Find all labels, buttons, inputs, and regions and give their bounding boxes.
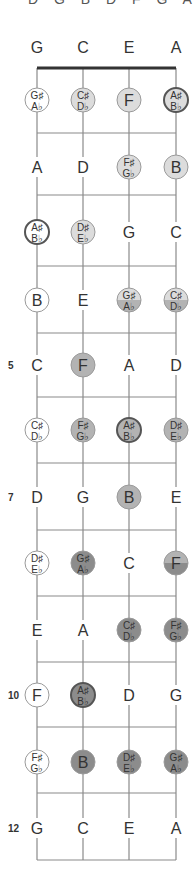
note-label-sharp: C♯	[123, 620, 135, 631]
note-label: C	[31, 357, 43, 374]
note-label: A	[124, 357, 135, 374]
note-label-sharp: G♯	[170, 752, 183, 763]
note-label: C	[123, 555, 135, 572]
note-label: D	[77, 159, 89, 176]
note-label: E	[124, 39, 135, 56]
note-label-flat: D♭	[170, 301, 182, 312]
note-label: E	[171, 489, 182, 506]
note-label-sharp: A♯	[77, 685, 89, 696]
note-label: F	[32, 687, 42, 704]
fret-number-label: 10	[8, 690, 20, 701]
note-label: G	[77, 489, 89, 506]
note-label: E	[78, 292, 89, 309]
note-label-sharp: F♯	[31, 752, 42, 763]
note-label-sharp: F♯	[170, 620, 181, 631]
note-label: C	[77, 39, 89, 56]
note-label-sharp: G♯	[31, 90, 44, 101]
note-label-flat: B♭	[77, 696, 89, 707]
note-label: F	[124, 92, 134, 109]
fret-number-label: 5	[8, 360, 14, 371]
note-label-flat: G♭	[123, 168, 136, 179]
note-label-flat: B♭	[170, 101, 182, 112]
note-label: C	[170, 224, 182, 241]
note-label: F	[78, 357, 88, 374]
note-label-flat: E♭	[31, 564, 43, 575]
note-label-flat: A♭	[31, 101, 43, 112]
note-label-flat: E♭	[170, 431, 182, 442]
note-label-flat: B♭	[123, 431, 135, 442]
note-label-flat: G♭	[31, 763, 44, 774]
note-label-flat: A♭	[170, 763, 182, 774]
note-label-sharp: D♯	[77, 222, 89, 233]
note-label: C	[77, 820, 89, 837]
note-label-flat: B♭	[31, 233, 43, 244]
note-label: G	[170, 687, 182, 704]
note-label-sharp: F♯	[77, 420, 88, 431]
note-label-sharp: C♯	[31, 420, 43, 431]
fretboard-diagram: GCEAG♯A♭C♯D♭FA♯B♭ADF♯G♭BA♯B♭D♯E♭GCBEG♯A♭…	[0, 0, 196, 895]
fret-number-label: 12	[8, 823, 20, 834]
note-label-sharp: G♯	[123, 290, 136, 301]
note-label: D	[123, 687, 135, 704]
note-label-sharp: D♯	[31, 553, 43, 564]
note-label: D	[170, 357, 182, 374]
note-label-sharp: D♯	[123, 752, 135, 763]
note-label-sharp: C♯	[170, 290, 182, 301]
note-label: D	[31, 489, 43, 506]
note-label-sharp: A♯	[31, 222, 43, 233]
note-label: G	[31, 820, 43, 837]
note-label-sharp: C♯	[77, 90, 89, 101]
note-label-flat: A♭	[77, 564, 89, 575]
note-label-sharp: F♯	[123, 157, 134, 168]
note-label-flat: A♭	[123, 301, 135, 312]
note-label: A	[171, 820, 182, 837]
note-label-flat: E♭	[77, 233, 89, 244]
fret-number-label: 7	[8, 492, 14, 503]
note-label-flat: G♭	[77, 431, 90, 442]
note-label-flat: E♭	[123, 763, 135, 774]
note-label: B	[32, 292, 43, 309]
note-label-flat: G♭	[170, 631, 183, 642]
note-label: E	[32, 622, 43, 639]
note-label: B	[78, 754, 89, 771]
note-label-flat: D♭	[31, 431, 43, 442]
note-label-sharp: A♯	[170, 90, 182, 101]
note-label-flat: D♭	[77, 101, 89, 112]
note-label: F	[171, 555, 181, 572]
note-label-sharp: G♯	[77, 553, 90, 564]
note-label-sharp: A♯	[123, 420, 135, 431]
note-label: A	[171, 39, 182, 56]
note-label: B	[171, 159, 182, 176]
note-label: A	[78, 622, 89, 639]
note-label-flat: D♭	[123, 631, 135, 642]
note-label: B	[124, 489, 135, 506]
note-label-sharp: D♯	[170, 420, 182, 431]
note-label: A	[32, 159, 43, 176]
note-label: G	[123, 224, 135, 241]
note-label: E	[124, 820, 135, 837]
note-label: G	[31, 39, 43, 56]
